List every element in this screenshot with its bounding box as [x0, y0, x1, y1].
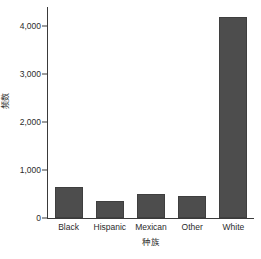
y-axis-tick-mark	[42, 218, 47, 219]
x-axis-title: 种族	[48, 235, 254, 247]
y-axis-tick-mark	[42, 26, 47, 27]
y-axis-tick-label: 3,000	[8, 69, 41, 79]
bar-hispanic[interactable]	[96, 201, 124, 218]
bar-chart: 频数 01,0002,0003,0004,000 BlackHispanicMe…	[0, 0, 261, 259]
x-axis-tick-label: Other	[182, 222, 203, 232]
bar-slot	[89, 7, 130, 218]
bar-slot	[130, 7, 171, 218]
y-axis-tick-mark	[42, 74, 47, 75]
bar-mexican[interactable]	[137, 194, 165, 218]
bar-slot	[172, 7, 213, 218]
y-axis-tick-label: 4,000	[8, 21, 41, 31]
bar-slot	[213, 7, 254, 218]
y-axis-tick-labels: 01,0002,0003,0004,000	[8, 0, 41, 259]
bar-other[interactable]	[178, 196, 206, 218]
x-axis-tick-labels: BlackHispanicMexicanOtherWhite	[48, 222, 254, 236]
y-axis-tick-label: 1,000	[8, 165, 41, 175]
y-axis-tick-mark	[42, 122, 47, 123]
x-axis-tick-label: White	[223, 222, 245, 232]
plot-area	[48, 7, 254, 218]
x-axis-tick-label: Black	[58, 222, 79, 232]
bar-black[interactable]	[55, 187, 83, 218]
y-axis-tick-mark	[42, 170, 47, 171]
bar-slot	[48, 7, 89, 218]
x-axis-line	[47, 218, 254, 219]
y-axis-tick-label: 2,000	[8, 117, 41, 127]
bar-white[interactable]	[219, 17, 247, 218]
y-axis-tick-label: 0	[8, 213, 41, 223]
x-axis-tick-label: Hispanic	[93, 222, 126, 232]
x-axis-tick-label: Mexican	[135, 222, 167, 232]
